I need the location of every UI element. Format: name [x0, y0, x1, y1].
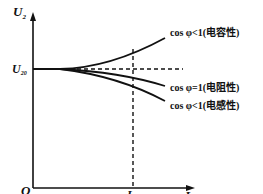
y-axis-arrow-icon — [30, 12, 36, 21]
label-inductive: cos φ<1(电感性) — [170, 99, 239, 112]
y-axis — [30, 12, 36, 188]
x-axis — [33, 185, 195, 191]
transformer-external-characteristic-diagram: U2 I2 O U20 I2N cos φ<1(电容性) cos φ=1(电阻性… — [0, 0, 263, 194]
label-capacitive: cos φ<1(电容性) — [170, 26, 239, 39]
diagram-svg: U2 I2 O U20 I2N cos φ<1(电容性) cos φ=1(电阻性… — [0, 0, 263, 194]
origin-label: O — [21, 183, 31, 194]
curve-capacitive — [33, 38, 165, 69]
i2n-label: I2N — [126, 188, 140, 194]
y-axis-label: U2 — [13, 4, 26, 21]
u20-label: U20 — [12, 62, 27, 76]
label-resistive: cos φ=1(电阻性) — [170, 81, 239, 94]
x-axis-label: I2 — [184, 188, 194, 194]
